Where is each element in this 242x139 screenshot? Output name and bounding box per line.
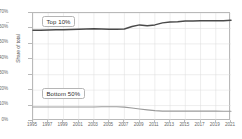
plot-area: [32, 12, 230, 120]
y-tick-label: 50%: [0, 40, 8, 45]
y-tick-label: 70%: [0, 10, 8, 15]
y-tick-label: 0%: [0, 118, 8, 123]
y-tick-label: 40%: [0, 56, 8, 61]
y-tick-label: 30%: [0, 71, 8, 76]
y-tick-label: 10%: [0, 102, 8, 107]
y-tick-label: 20%: [0, 87, 8, 92]
series-label-bottom-50: Bottom 50%: [42, 88, 85, 99]
y-tick-label: 60%: [0, 25, 8, 30]
y-axis-title: Share of total: [16, 19, 21, 79]
series-lines: [33, 13, 231, 121]
series-label-top-10: Top 10%: [42, 16, 75, 27]
line-chart: Share of total 0%10%20%30%40%50%60%70% 1…: [0, 0, 242, 139]
x-tick-label: 2021: [218, 123, 242, 128]
stray-mark: [6, 22, 9, 23]
